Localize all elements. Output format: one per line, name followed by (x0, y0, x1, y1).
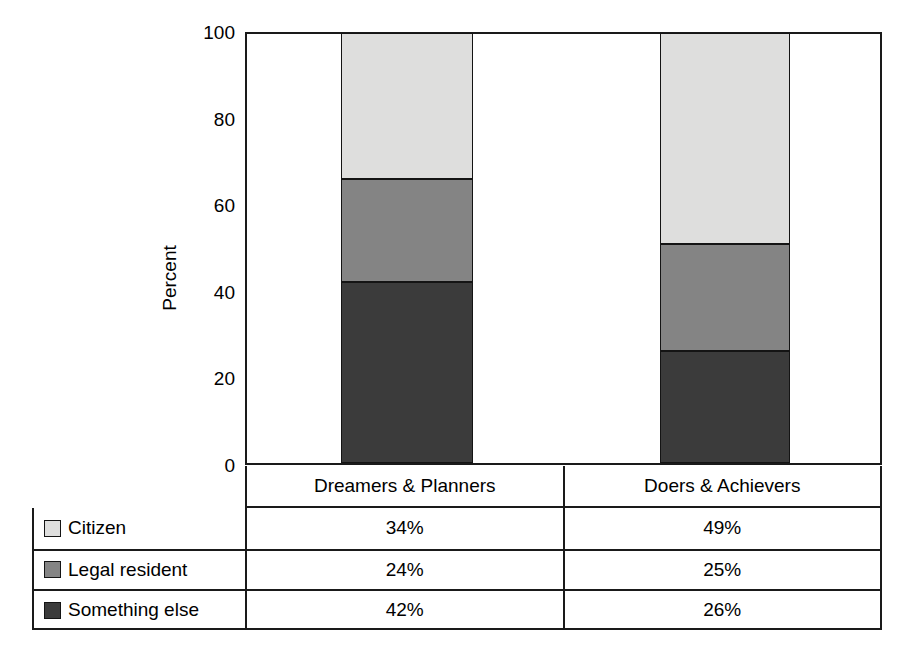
legend-swatch-citizen (44, 520, 61, 537)
y-tick-label-40: 40 (175, 283, 235, 302)
bar-dreamers-and-planners (341, 33, 473, 463)
stacked-bar-chart-figure: 100 80 60 40 20 0 Percent Dreamers & Pla… (0, 0, 912, 668)
legend-entry-citizen: Citizen (34, 508, 247, 549)
bar-segment-legal-resident (660, 244, 790, 352)
column-header-dreamers-and-planners: Dreamers & Planners (247, 466, 563, 506)
y-tick-label-100: 100 (175, 23, 235, 42)
column-header-doers-and-achievers: Doers & Achievers (563, 466, 881, 506)
data-table: Dreamers & Planners Doers & Achievers Ci… (32, 466, 882, 630)
table-row: Legal resident 24% 25% (34, 549, 880, 590)
legend-entry-legal-resident: Legal resident (34, 551, 247, 590)
y-axis-title: Percent (159, 245, 181, 310)
bar-segment-citizen (660, 33, 790, 244)
table-row: Citizen 34% 49% (34, 508, 880, 549)
legend-label-something-else: Something else (68, 599, 199, 621)
cell-legal-resident-dreamers: 24% (247, 551, 563, 590)
bar-segment-something-else (341, 282, 473, 463)
bar-segment-legal-resident (341, 179, 473, 282)
legend-label-citizen: Citizen (68, 517, 126, 539)
legend-entry-something-else: Something else (34, 591, 247, 630)
table-body: Citizen 34% 49% Legal resident 24% 25% S… (32, 508, 882, 630)
table-row: Something else 42% 26% (34, 589, 880, 630)
y-tick-label-80: 80 (175, 110, 235, 129)
y-tick-label-60: 60 (175, 196, 235, 215)
bar-doers-and-achievers (660, 33, 790, 463)
cell-legal-resident-doers: 25% (563, 551, 881, 590)
cell-citizen-dreamers: 34% (247, 508, 563, 549)
bar-segment-something-else (660, 351, 790, 463)
bar-segment-citizen (341, 33, 473, 179)
legend-swatch-something-else (44, 602, 61, 619)
cell-something-else-dreamers: 42% (247, 591, 563, 630)
cell-citizen-doers: 49% (563, 508, 881, 549)
y-tick-label-20: 20 (175, 369, 235, 388)
cell-something-else-doers: 26% (563, 591, 881, 630)
legend-swatch-legal-resident (44, 561, 61, 578)
legend-label-legal-resident: Legal resident (68, 559, 187, 581)
table-header-row: Dreamers & Planners Doers & Achievers (245, 466, 882, 508)
